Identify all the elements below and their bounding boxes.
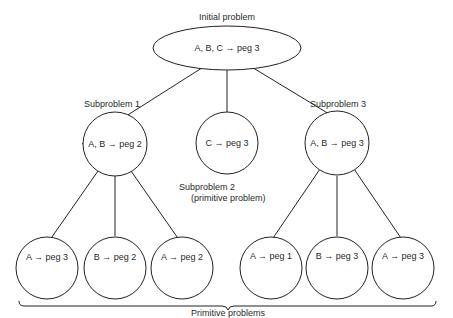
- leaf-node-5: [306, 237, 368, 299]
- leaf-6-label: A → peg 3: [382, 251, 424, 261]
- subproblem-2-subcaption: (primitive problem): [191, 193, 266, 203]
- initial-problem-caption: Initial problem: [199, 12, 255, 22]
- leaf-node-6: [372, 237, 434, 299]
- subproblem-3-caption: Subproblem 3: [310, 99, 366, 109]
- primitive-problems-caption: Primitive problems: [191, 308, 265, 318]
- leaf-1-label: A → peg 3: [26, 252, 68, 262]
- leaf-node-2: [84, 237, 146, 299]
- subproblem-1-label: A, B → peg 2: [88, 139, 142, 149]
- edge-sub3-child3: [354, 169, 403, 241]
- leaf-3-label: A → peg 2: [161, 252, 203, 262]
- leaf-node-1: [16, 237, 78, 299]
- edge-sub1-child3: [131, 171, 182, 244]
- subproblem-3-label: A, B → peg 3: [310, 138, 364, 148]
- subproblem-1-caption: Subproblem 1: [84, 99, 140, 109]
- subproblem-2-label: C → peg 3: [205, 138, 248, 148]
- edge-sub1-child1: [47, 171, 98, 244]
- leaf-2-label: B → peg 2: [94, 252, 137, 262]
- leaf-node-4: [240, 237, 302, 299]
- root-node-label: A, B, C → peg 3: [194, 43, 259, 53]
- leaf-4-label: A → peg 1: [250, 251, 292, 261]
- leaf-node-3: [151, 237, 213, 299]
- edge-sub3-child1: [271, 169, 320, 241]
- leaf-5-label: B → peg 3: [316, 251, 359, 261]
- subproblem-2-caption: Subproblem 2: [179, 182, 235, 192]
